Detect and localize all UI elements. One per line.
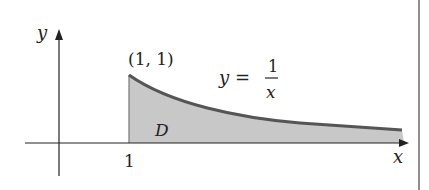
point-label: (1, 1) <box>128 49 174 69</box>
region-label: D <box>154 120 169 140</box>
y-axis-label: y <box>36 22 48 43</box>
y-axis-arrow-icon <box>55 29 63 40</box>
diagram-canvas: y x 1 (1, 1) D y = 1 x <box>0 0 429 190</box>
equation-denominator: x <box>266 82 276 102</box>
x-tick-label: 1 <box>124 151 135 171</box>
x-axis-label: x <box>393 146 403 167</box>
equation-numerator: 1 <box>268 57 278 76</box>
equation-lhs: y = <box>218 67 250 88</box>
